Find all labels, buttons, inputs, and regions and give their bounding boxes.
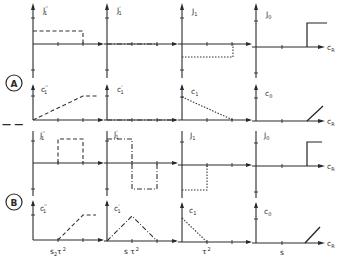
y-arrow-icon	[105, 3, 109, 10]
x-axis-label: cR	[327, 162, 335, 172]
x-arrow-icon	[246, 240, 252, 244]
panel-label: c'1	[117, 84, 124, 95]
section-b-c-row: c''1 c'1 c1	[31, 200, 335, 249]
x-arrow-icon	[318, 164, 325, 168]
x-arrow-icon	[318, 241, 325, 245]
panel-a-c1-prime: c'1	[104, 84, 178, 122]
x-arrow-icon	[318, 45, 325, 49]
panel-label: c''1	[41, 84, 48, 95]
c0-curve	[305, 227, 320, 243]
panel-a-c1: c1	[178, 84, 252, 122]
x-arrow-icon	[172, 161, 178, 165]
panel-a-j1-second: J''1	[31, 3, 104, 78]
panel-a-c0: c0 cR	[252, 84, 335, 127]
section-separator: — —	[2, 119, 23, 129]
x-arrow-icon	[98, 118, 104, 122]
y-arrow-icon	[31, 84, 35, 90]
panel-label: J1	[189, 131, 195, 141]
x-axis-label: cR	[327, 239, 335, 249]
j1-second-curve	[58, 139, 83, 163]
panel-b-j0: J0 cR	[252, 131, 335, 198]
x-arrow-icon	[246, 163, 252, 167]
panel-label: c1	[189, 206, 196, 216]
x-axis-label: cR	[327, 117, 335, 127]
section-b: B J''1	[6, 129, 335, 257]
section-a-label: A	[11, 79, 18, 89]
y-arrow-icon	[180, 202, 184, 208]
c1-second-curve	[58, 215, 96, 240]
panel-label: J''1	[42, 5, 48, 16]
x-arrow-icon	[172, 239, 178, 243]
y-arrow-icon	[254, 84, 258, 90]
bottom-labels: s2τ2 s τ2 τ2 s	[50, 246, 284, 257]
section-b-label: B	[11, 198, 18, 208]
c1-curve	[182, 97, 233, 120]
bottom-label-3: τ2	[202, 246, 211, 256]
j1-curve	[182, 165, 207, 190]
bottom-label-1: s2τ2	[50, 246, 66, 257]
section-b-badge: B	[6, 194, 22, 210]
section-a-j-row: J''1 J'1	[31, 3, 335, 78]
panel-b-c1: c1	[178, 202, 252, 244]
section-a-c-row: c''1 c'1	[31, 84, 335, 127]
panel-b-c1-second: c''1	[31, 200, 104, 242]
panel-label: c0	[264, 207, 271, 217]
panel-label: J'1	[113, 129, 119, 140]
x-arrow-icon	[172, 118, 178, 122]
panel-b-j1-prime: J'1	[104, 129, 178, 196]
y-arrow-icon	[254, 3, 258, 10]
j0-curve	[307, 23, 327, 47]
panel-a-c1-second: c''1	[31, 84, 104, 122]
panel-label: c''1	[40, 203, 47, 214]
y-arrow-icon	[105, 200, 109, 206]
c1-second-curve	[33, 96, 98, 120]
figure: A J''1	[0, 0, 343, 264]
section-b-j-row: J''1 J'1	[31, 129, 335, 198]
bottom-label-4: s	[280, 248, 284, 257]
y-arrow-icon	[105, 84, 109, 90]
panel-label: J1	[191, 7, 197, 17]
section-a-badge: A	[6, 75, 22, 91]
y-arrow-icon	[31, 3, 35, 10]
y-arrow-icon	[180, 84, 184, 90]
panel-label: J'1	[116, 5, 122, 16]
panel-label: c1	[191, 87, 198, 97]
x-arrow-icon	[246, 42, 252, 46]
y-arrow-icon	[31, 200, 35, 206]
y-arrow-icon	[254, 202, 258, 208]
j1-curve	[182, 44, 233, 57]
x-arrow-icon	[172, 42, 178, 46]
panel-a-j1: J1	[178, 3, 252, 78]
panel-label: c'1	[114, 203, 121, 214]
c1-prime-curve	[107, 216, 157, 241]
panel-b-j1-second: J''1	[31, 130, 104, 196]
panel-a-j1-prime: J'1	[104, 3, 178, 78]
x-axis-label: cR	[327, 43, 335, 53]
panel-b-j1: J1	[178, 131, 252, 198]
c1-curve	[182, 218, 207, 242]
panel-a-j0: J0 cR	[252, 3, 335, 78]
x-arrow-icon	[98, 238, 104, 242]
x-arrow-icon	[318, 119, 325, 123]
x-arrow-icon	[98, 42, 104, 46]
x-arrow-icon	[98, 161, 104, 165]
panel-label: J0	[263, 131, 269, 141]
panel-b-c0: c0 cR	[252, 202, 335, 249]
j1-prime-curve	[107, 139, 157, 189]
panel-label: J''1	[39, 130, 45, 141]
x-arrow-icon	[246, 118, 252, 122]
j0-curve	[307, 142, 322, 166]
bottom-label-2: s τ2	[124, 246, 139, 256]
y-arrow-icon	[180, 3, 184, 10]
panel-b-c1-prime: c'1	[104, 200, 178, 243]
panel-label: c0	[265, 89, 272, 99]
section-a: A J''1	[6, 3, 335, 127]
panel-label: J0	[265, 10, 271, 20]
c0-curve	[307, 106, 323, 121]
